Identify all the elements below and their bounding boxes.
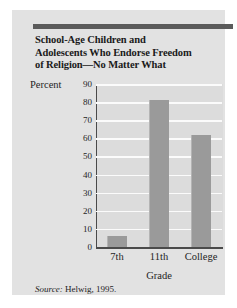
bar-chart: 0102030405060708090 7th11thCollege Grade [96, 84, 222, 247]
x-axis-tick-label: 7th [110, 251, 123, 262]
x-axis-title: Grade [146, 270, 172, 281]
x-axis-tick-label: 11th [150, 251, 168, 262]
bar [107, 236, 127, 247]
y-axis-tick-label: 80 [70, 97, 92, 107]
figure-card: School-Age Children and Adolescents Who … [12, 10, 225, 295]
bar [191, 135, 211, 247]
y-axis-tick-label: 70 [70, 115, 92, 125]
title-line-1: School-Age Children and [35, 34, 230, 47]
gridline [96, 84, 222, 86]
x-axis-line [96, 247, 223, 249]
source-text: Helwig, 1995. [65, 284, 116, 294]
y-axis-tick-label: 60 [70, 133, 92, 143]
page-title: School-Age Children and Adolescents Who … [35, 34, 230, 72]
source-note: Source: Helwig, 1995. [35, 284, 116, 294]
title-line-3: of Religion—No Matter What [35, 59, 230, 72]
y-axis-tick-label: 50 [70, 151, 92, 161]
title-line-2: Adolescents Who Endorse Freedom [35, 47, 230, 60]
y-axis-tick-label: 40 [70, 170, 92, 180]
y-axis-title: Percent [30, 79, 62, 90]
y-axis-tick-label: 90 [70, 79, 92, 89]
source-label: Source: [35, 284, 63, 294]
y-axis-tick-label: 30 [70, 188, 92, 198]
x-axis-tick-label: College [185, 251, 218, 262]
top-rule-divider [33, 24, 233, 29]
y-axis-tick-label: 10 [70, 224, 92, 234]
y-axis-tick-label: 0 [70, 242, 92, 252]
bar [149, 100, 169, 247]
y-axis-tick-label: 20 [70, 206, 92, 216]
